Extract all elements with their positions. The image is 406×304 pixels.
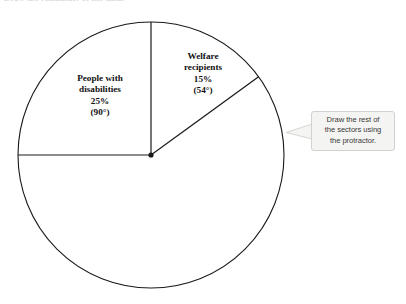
welfare-label-line2: recipients <box>160 62 246 73</box>
disabilities-label-line1: People with <box>44 73 156 84</box>
callout-line2: the sectors using <box>311 125 395 135</box>
instruction-callout-text: Draw the rest of the sectors using the p… <box>311 115 395 146</box>
pie-chart-diagram: Draw the remainder of the data. People w… <box>0 0 406 304</box>
callout-line3: the protractor. <box>311 136 395 146</box>
welfare-label-line1: Welfare <box>160 51 246 62</box>
welfare-label-percent: 15% <box>160 74 246 85</box>
disabilities-label-percent: 25% <box>44 96 156 107</box>
welfare-label-degrees: (54°) <box>160 85 246 96</box>
disabilities-label-degrees: (90°) <box>44 107 156 118</box>
callout-line1: Draw the rest of <box>311 115 395 125</box>
disabilities-sector-label: People with disabilities 25% (90°) <box>44 73 156 119</box>
instruction-callout: Draw the rest of the sectors using the p… <box>311 111 395 151</box>
pie-drawing-canvas <box>0 0 406 304</box>
callout-pointer-icon <box>286 124 312 139</box>
disabilities-label-line2: disabilities <box>44 84 156 95</box>
welfare-sector-label: Welfare recipients 15% (54°) <box>160 51 246 97</box>
pie-center-point <box>148 152 153 157</box>
